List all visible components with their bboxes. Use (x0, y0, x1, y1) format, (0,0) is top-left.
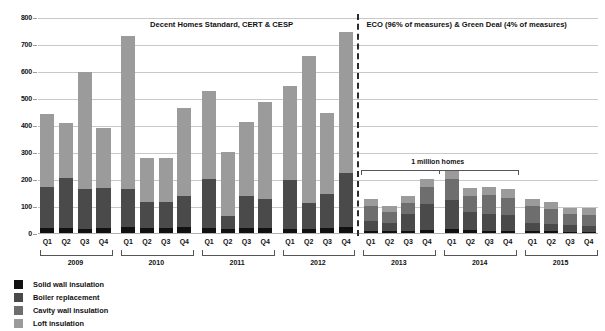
x-axis-year-bracket (444, 250, 517, 256)
y-axis-tick-label: 600 (6, 68, 32, 75)
bar-segment (221, 216, 235, 229)
x-axis-quarter-label: Q4 (175, 238, 194, 245)
y-axis-tick-label: 100 (6, 203, 32, 210)
bar-segment (177, 196, 191, 227)
x-axis-quarter-label: Q4 (498, 238, 517, 245)
bar-segment (159, 158, 173, 202)
x-axis-quarter-label: Q3 (156, 238, 175, 245)
bar-segment (320, 194, 334, 228)
left-policy-label: Decent Homes Standard, CERT & CESP (150, 20, 293, 29)
y-axis-tick-mark (33, 18, 37, 19)
bar-segment (463, 212, 477, 230)
bar-segment (501, 215, 515, 231)
bar (221, 152, 235, 234)
bar-segment (140, 158, 154, 202)
bar-segment (382, 223, 396, 232)
bar (320, 113, 334, 234)
bar-segment (202, 179, 216, 228)
bar-segment (320, 113, 334, 194)
bar-segment (544, 209, 558, 224)
bar-segment (121, 189, 135, 227)
x-axis-quarter-label: Q2 (138, 238, 157, 245)
bar-segment (445, 200, 459, 229)
x-axis-year-bracket (525, 250, 598, 256)
x-axis-quarter-label: Q2 (461, 238, 480, 245)
million-homes-label: 1 million homes (411, 158, 464, 165)
bar-segment (420, 179, 434, 187)
bar-segment (525, 206, 539, 223)
bar (302, 56, 316, 234)
bar (420, 179, 434, 234)
bar-segment (544, 202, 558, 209)
bar-segment (258, 102, 272, 199)
bar-segment (501, 198, 515, 215)
legend-item: Cavity wall insulation (14, 304, 108, 317)
bar (59, 123, 73, 234)
y-axis-tick-mark (33, 153, 37, 154)
bar-segment (40, 114, 54, 187)
bar-segment (78, 189, 92, 229)
bar (283, 86, 297, 234)
x-axis-quarter-label: Q2 (57, 238, 76, 245)
x-axis-quarter-label: Q1 (281, 238, 300, 245)
bar-segment (482, 187, 496, 195)
legend-label: Cavity wall insulation (33, 306, 108, 315)
bar-segment (463, 188, 477, 196)
legend-label: Boiler replacement (33, 293, 100, 302)
legend-label: Solid wall insulation (33, 280, 104, 289)
x-axis-year-bracket (363, 250, 436, 256)
x-axis-year-bracket (283, 250, 356, 256)
x-axis-quarter-label: Q3 (318, 238, 337, 245)
bar (177, 108, 191, 234)
y-axis-tick-label: 200 (6, 176, 32, 183)
x-axis-year-label: 2015 (525, 259, 596, 266)
y-axis-tick-mark (33, 45, 37, 46)
bar-segment (501, 189, 515, 198)
x-axis-quarter-label: Q1 (442, 238, 461, 245)
bar (463, 188, 477, 234)
bar-segment (364, 199, 378, 206)
bar-segment (78, 72, 92, 189)
bar-segment (40, 187, 54, 228)
bar (501, 189, 515, 234)
x-axis-quarter-label: Q2 (542, 238, 561, 245)
bar-segment (339, 173, 353, 227)
legend-item: Loft insulation (14, 317, 108, 330)
bar-segment (482, 195, 496, 214)
x-axis-quarter-label: Q3 (237, 238, 256, 245)
x-axis-quarter-label: Q3 (480, 238, 499, 245)
bar (258, 102, 272, 234)
bar-segment (59, 178, 73, 228)
bar (339, 32, 353, 234)
bar (140, 158, 154, 234)
bar-segment (121, 36, 135, 189)
bar-segment (239, 122, 253, 196)
bar (482, 187, 496, 234)
y-axis-tick-label: 500 (6, 95, 32, 102)
bar (582, 208, 596, 234)
x-axis-quarter-label: Q3 (561, 238, 580, 245)
bar (40, 114, 54, 234)
x-axis-quarter-label: Q2 (299, 238, 318, 245)
x-axis-quarter-label: Q4 (579, 238, 598, 245)
x-axis-quarter-label: Q2 (218, 238, 237, 245)
bar-segment (525, 223, 539, 231)
legend-label: Loft insulation (33, 319, 84, 328)
x-axis-quarter-label: Q1 (119, 238, 138, 245)
y-axis-tick-label: 0 (6, 230, 32, 237)
legend-swatch (14, 293, 23, 302)
right-policy-label: ECO (96% of measures) & Green Deal (4% o… (366, 20, 566, 29)
bar (239, 122, 253, 234)
bar (78, 72, 92, 234)
x-axis-year-label: 2011 (202, 259, 273, 266)
bar (96, 128, 110, 234)
x-axis-year-bracket (40, 250, 113, 256)
x-axis-quarter-label: Q2 (380, 238, 399, 245)
y-axis-tick-label: 300 (6, 149, 32, 156)
bar (202, 91, 216, 234)
y-axis-tick-label: 700 (6, 41, 32, 48)
legend: Solid wall insulationBoiler replacementC… (14, 278, 108, 330)
bar-segment (563, 214, 577, 225)
x-axis-quarter-label: Q3 (75, 238, 94, 245)
bar (445, 171, 459, 234)
